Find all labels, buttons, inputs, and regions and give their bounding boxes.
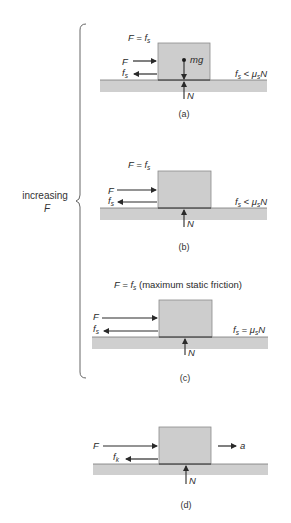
friction-label: fk <box>113 451 120 463</box>
friction-label: fs <box>108 195 115 207</box>
ground <box>92 337 268 349</box>
friction-label: fs <box>122 67 129 79</box>
condition-a: fs < μsN <box>235 68 267 80</box>
condition-c: fs = μsN <box>233 324 265 336</box>
side-label-increasing: increasing <box>22 190 68 201</box>
normal-label: N <box>189 475 196 486</box>
block <box>159 427 211 464</box>
normal-label: N <box>187 218 194 229</box>
normal-label: N <box>187 90 194 101</box>
caption-c: (c) <box>180 373 191 383</box>
block <box>159 300 212 337</box>
weight-label: mg <box>190 54 204 65</box>
friction-diagram: increasing F F = fs F fs mg N fs < μsN (… <box>0 0 291 523</box>
acceleration-label: a <box>240 440 245 451</box>
block <box>158 171 211 208</box>
title-a: F = fs <box>128 32 151 44</box>
title-b: F = fs <box>128 159 151 171</box>
title-c: F = fs (maximum static friction) <box>114 279 242 291</box>
panel-c: F = fs (maximum static friction) F fs N … <box>92 279 268 383</box>
friction-label: fs <box>93 323 100 335</box>
normal-label: N <box>188 347 195 358</box>
side-label-f: F <box>44 203 51 214</box>
panel-d: F fk a N (d) <box>93 427 268 510</box>
ground <box>93 464 268 475</box>
panel-b: F = fs F fs N fs < μsN (b) <box>100 159 267 252</box>
force-label: F <box>93 311 100 322</box>
increasing-force-brace <box>76 24 86 378</box>
caption-d: (d) <box>181 500 192 510</box>
condition-b: fs < μsN <box>235 196 267 208</box>
force-label: F <box>122 56 129 67</box>
caption-b: (b) <box>179 242 190 252</box>
force-label: F <box>93 440 100 451</box>
panel-a: F = fs F fs mg N fs < μsN (a) <box>100 32 267 119</box>
caption-a: (a) <box>179 109 190 119</box>
